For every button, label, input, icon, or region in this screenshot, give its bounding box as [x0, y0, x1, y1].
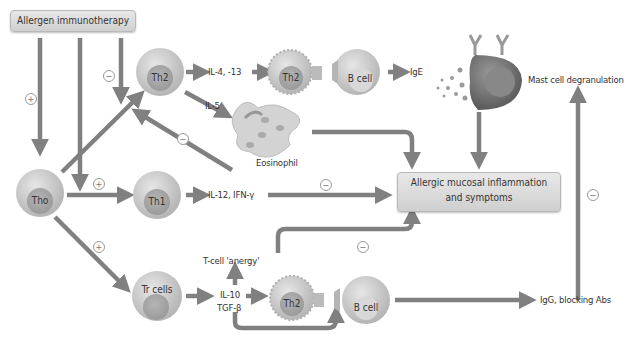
il5-label: IL-5 [205, 100, 220, 111]
tho-cell [16, 169, 64, 217]
minus-sign: − [177, 133, 189, 145]
arrow-th2-inhibit-inflammation [278, 213, 412, 253]
bcell-top [332, 49, 380, 95]
th2-top-label: Th2 [145, 72, 175, 83]
th2-bottom-label: Th2 [277, 298, 307, 309]
arrow-eosinophil-to-inflammation [312, 132, 412, 163]
bcell-top-label: B cell [340, 73, 380, 84]
tgfb-label: TGF-β [217, 302, 241, 313]
eosinophil-cell [232, 102, 300, 157]
il12-ifn-label: IL-12, IFN-γ [208, 189, 254, 200]
tr-label: Tr cells [132, 284, 182, 295]
tho-label: Tho [25, 195, 55, 206]
th1-label: Th1 [142, 196, 172, 207]
minus-sign: − [320, 179, 332, 191]
il4-13-label: IL-4, -13 [208, 66, 241, 77]
igg-label: IgG, blocking Abs [540, 294, 611, 305]
th2-mid-label: Th2 [276, 72, 306, 83]
th1-cell [133, 171, 181, 219]
ige-label: IgE [410, 66, 423, 77]
anergy-label: T-cell 'anergy' [203, 255, 259, 266]
outcome-line2: and symptoms [398, 190, 560, 205]
il10-label: IL-10 [220, 289, 240, 300]
minus-sign: − [103, 70, 115, 82]
mast-cell [437, 35, 523, 110]
plus-sign: + [93, 241, 105, 253]
minus-sign: − [357, 241, 369, 253]
outcome-line1: Allergic mucosal inflammation [398, 175, 560, 190]
arrow-tho-to-tr [55, 217, 126, 288]
outcome-box: Allergic mucosal inflammation and sympto… [397, 172, 561, 212]
allergen-immunotherapy-box: Allergen immunotherapy [10, 10, 136, 32]
bcell-bottom [334, 276, 390, 324]
plus-sign: + [93, 178, 105, 190]
arrow-tho-to-th2 [62, 95, 140, 172]
plus-sign: + [25, 93, 37, 105]
minus-sign: − [587, 189, 599, 201]
mast-cell-label: Mast cell degranulation [528, 74, 624, 85]
tr-cell [132, 271, 182, 321]
eosinophil-label: Eosinophil [256, 157, 298, 168]
bcell-bottom-label: B cell [346, 302, 386, 313]
